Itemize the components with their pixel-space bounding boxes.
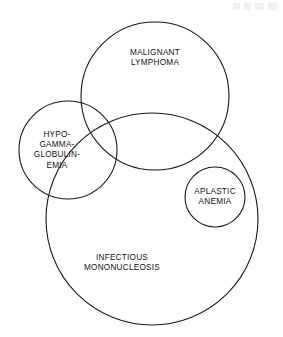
circle-infectious-mononucleosis <box>46 113 258 325</box>
scan-artifact <box>233 3 277 10</box>
venn-diagram: MALIGNANT LYMPHOMA HYPO- GAMMA- GLOBULIN… <box>0 0 283 337</box>
circle-hypogammaglobulinemia <box>19 101 117 199</box>
circle-aplastic-anemia <box>185 167 245 227</box>
venn-circles-canvas <box>0 0 283 337</box>
circle-malignant-lymphoma <box>81 22 229 170</box>
